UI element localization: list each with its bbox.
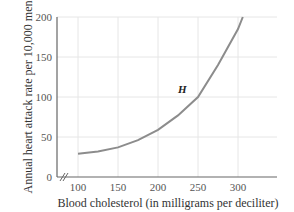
svg-text:100: 100 bbox=[36, 91, 53, 103]
y-tick-labels: 0 50 100 150 200 bbox=[36, 11, 53, 183]
svg-text:300: 300 bbox=[230, 181, 247, 193]
x-axis-label: Blood cholesterol (in milligrams per dec… bbox=[58, 196, 279, 210]
svg-text:200: 200 bbox=[150, 181, 167, 193]
svg-text:0: 0 bbox=[47, 171, 53, 183]
series-H bbox=[78, 17, 243, 154]
x-tick-labels: 100 150 200 250 300 bbox=[70, 181, 247, 193]
svg-text:150: 150 bbox=[36, 51, 53, 63]
y-axis-label: Annual heart attack rate per 10,000 men bbox=[21, 1, 35, 194]
svg-text:50: 50 bbox=[41, 131, 53, 143]
svg-text:100: 100 bbox=[70, 181, 87, 193]
svg-text:250: 250 bbox=[190, 181, 207, 193]
chart: 0 50 100 150 200 100 150 200 250 300 Blo… bbox=[0, 0, 294, 212]
svg-text:200: 200 bbox=[36, 11, 53, 23]
svg-text:150: 150 bbox=[110, 181, 127, 193]
series-label-H: H bbox=[177, 83, 187, 95]
